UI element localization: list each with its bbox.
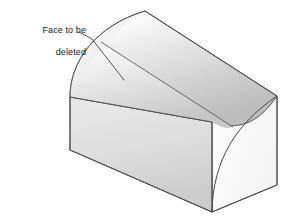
solid-body — [70, 11, 277, 212]
annotation-label-line-1: Face to be — [8, 25, 86, 36]
annotation-label-line-2: deleted — [8, 47, 86, 58]
figure-canvas: Face to be deleted — [0, 0, 292, 222]
annotation-label: Face to be deleted — [8, 14, 86, 69]
